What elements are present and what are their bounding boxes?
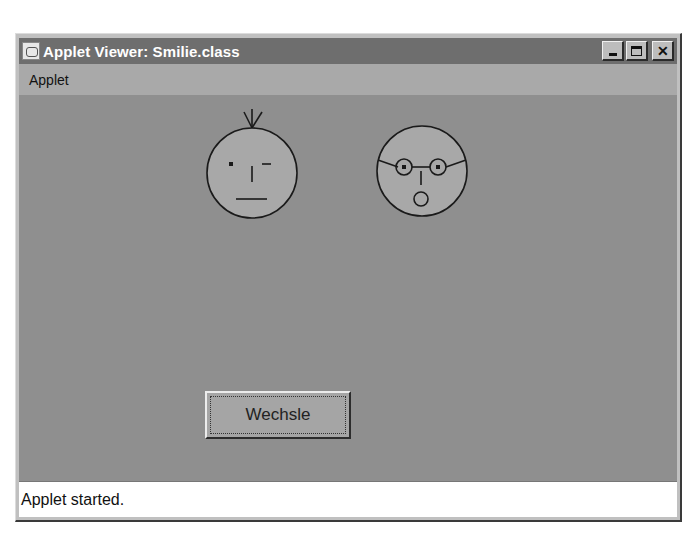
maximize-icon xyxy=(631,46,642,56)
menu-applet[interactable]: Applet xyxy=(29,72,69,88)
window-title: Applet Viewer: Smilie.class xyxy=(43,43,240,60)
applet-canvas: Wechsle xyxy=(19,95,677,481)
close-icon: ✕ xyxy=(657,43,669,59)
close-button[interactable]: ✕ xyxy=(652,41,674,61)
hair-strand-icon xyxy=(244,112,252,128)
title-bar[interactable]: Applet Viewer: Smilie.class ✕ xyxy=(19,38,677,64)
menu-bar: Applet xyxy=(19,64,677,95)
status-text: Applet started. xyxy=(21,491,124,509)
applet-viewer-window: Applet Viewer: Smilie.class ✕ Applet xyxy=(15,33,682,522)
maximize-button[interactable] xyxy=(626,41,648,61)
window-controls: ✕ xyxy=(602,41,674,61)
surprised-face-with-glasses xyxy=(374,123,474,223)
wechsle-button[interactable]: Wechsle xyxy=(205,391,351,439)
winking-face xyxy=(204,104,304,219)
minimize-button[interactable] xyxy=(602,41,624,61)
java-coffee-cup-icon[interactable] xyxy=(22,42,40,60)
minimize-icon xyxy=(609,53,617,56)
wechsle-button-label: Wechsle xyxy=(246,405,311,425)
status-bar: Applet started. xyxy=(19,481,677,517)
